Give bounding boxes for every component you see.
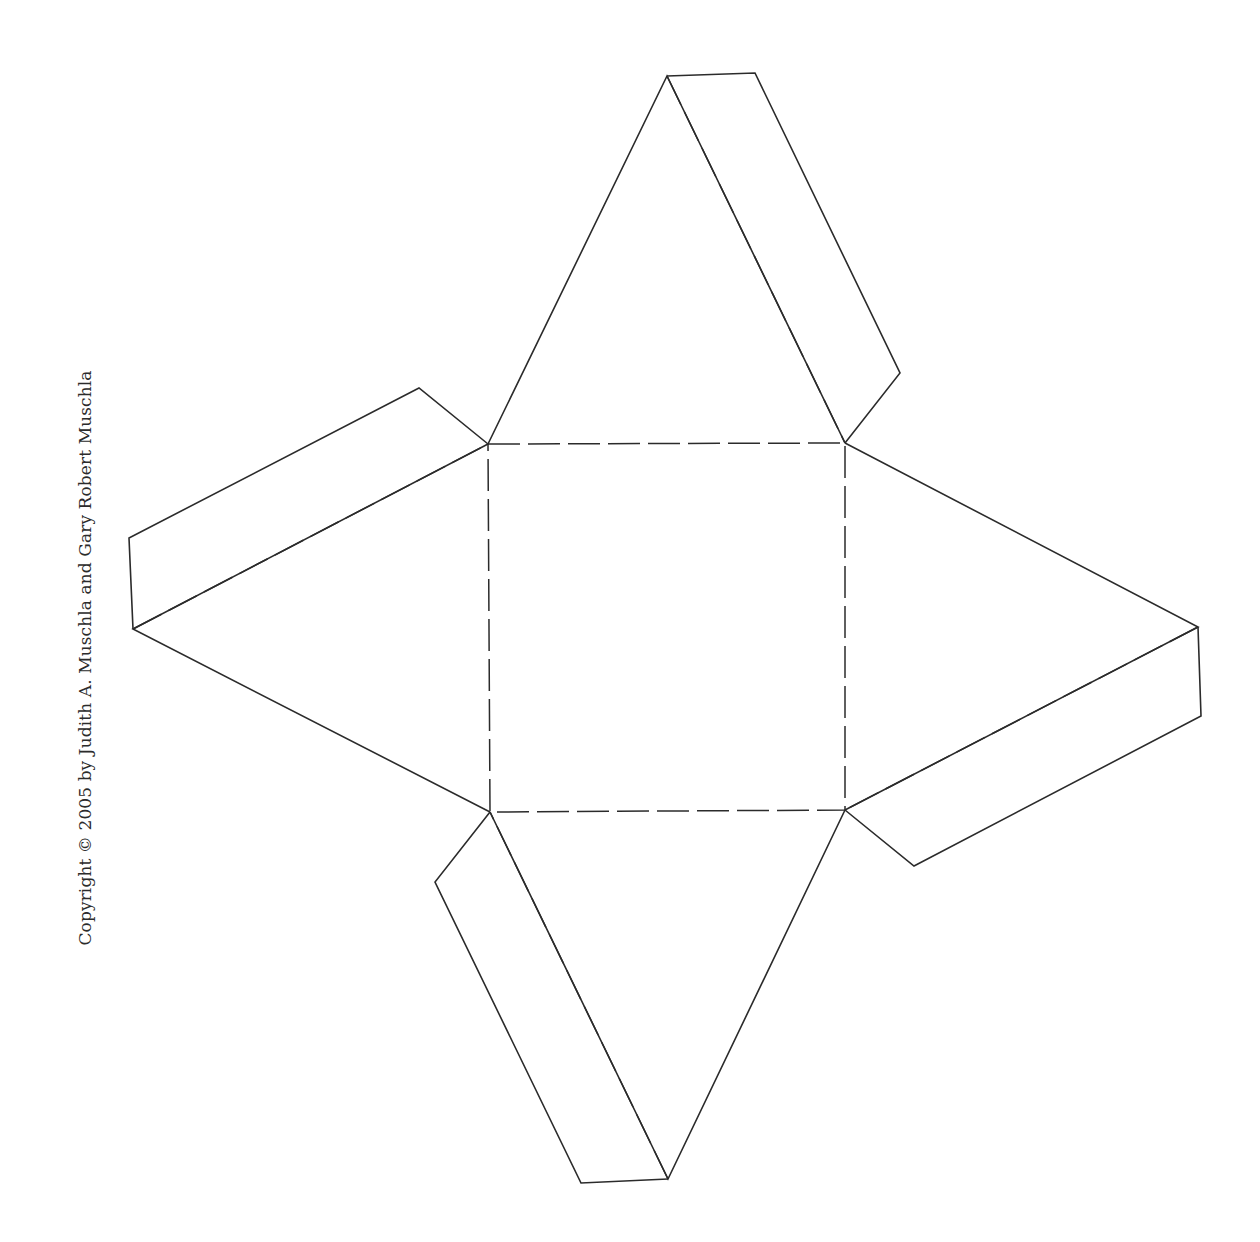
copyright-notice: Copyright © 2005 by Judith A. Muschla an… bbox=[75, 371, 95, 946]
tab-left-cut bbox=[129, 388, 488, 629]
tab-left-fold bbox=[133, 444, 488, 629]
pyramid-net-diagram bbox=[0, 0, 1260, 1242]
tab-right-cut bbox=[845, 627, 1201, 866]
face-right-cut-edge bbox=[845, 443, 1198, 810]
tab-bottom-fold bbox=[490, 812, 668, 1179]
tab-bottom-cut bbox=[435, 812, 668, 1183]
base-square-fold bbox=[488, 443, 845, 812]
tab-top-cut bbox=[667, 73, 900, 443]
face-left-cut-edge bbox=[133, 444, 490, 812]
face-top-cut-edge bbox=[488, 76, 845, 444]
face-bottom-cut-edge bbox=[490, 810, 845, 1179]
tab-top-fold bbox=[667, 76, 845, 443]
